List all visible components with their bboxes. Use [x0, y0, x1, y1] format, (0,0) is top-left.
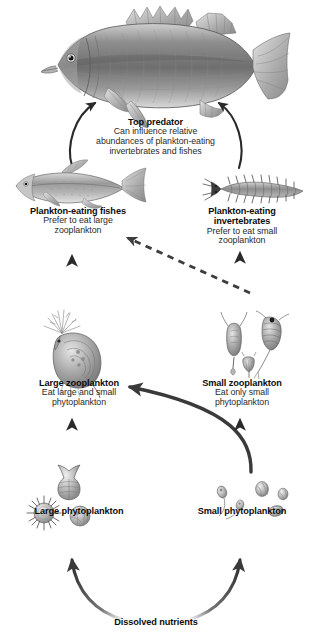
small-zooplankton-line-2: phytoplankton — [178, 398, 306, 408]
label-small-phytoplankton: Small phytoplankton — [178, 506, 306, 516]
label-plankton-eating-fishes: Plankton-eating fishes Prefer to eat lar… — [2, 206, 154, 236]
label-small-zooplankton: Small zooplankton Eat only small phytopl… — [178, 378, 306, 408]
food-web-diagram: Top predator Can influence relative abun… — [0, 0, 311, 639]
small-silvery-fish-icon — [16, 160, 146, 209]
small-phytoplankton-title: Small phytoplankton — [178, 506, 306, 516]
label-plankton-eating-invertebrates: Plankton-eating invertebrates Prefer to … — [176, 206, 308, 246]
diagram-artwork-layer — [0, 0, 311, 639]
large-predatory-fish-icon — [41, 6, 290, 128]
bristle-worm-icon — [203, 175, 303, 203]
label-large-phytoplankton: Large phytoplankton — [6, 506, 152, 516]
plankton-eating-invertebrates-line-2: zooplankton — [176, 236, 308, 246]
arrow-nutrients-to-small-phyto — [188, 560, 240, 620]
label-top-predator: Top predator Can influence relative abun… — [75, 117, 236, 157]
plankton-eating-invertebrates-title-line-1: Plankton-eating — [176, 206, 308, 216]
top-predator-line-3: invertebrates and fishes — [75, 147, 236, 157]
dissolved-nutrients-title: Dissolved nutrients — [76, 617, 236, 627]
large-zooplankton-line-2: phytoplankton — [4, 398, 154, 408]
large-phytoplankton-title: Large phytoplankton — [6, 506, 152, 516]
label-large-zooplankton: Large zooplankton Eat large and small ph… — [4, 378, 154, 408]
label-dissolved-nutrients: Dissolved nutrients — [76, 617, 236, 627]
plankton-eating-fishes-line-2: zooplankton — [2, 226, 154, 236]
rotifer-copepod-cluster-icon — [221, 311, 289, 379]
arrow-nutrients-to-large-phyto — [72, 560, 124, 620]
diatom-colony-icon — [27, 465, 90, 530]
